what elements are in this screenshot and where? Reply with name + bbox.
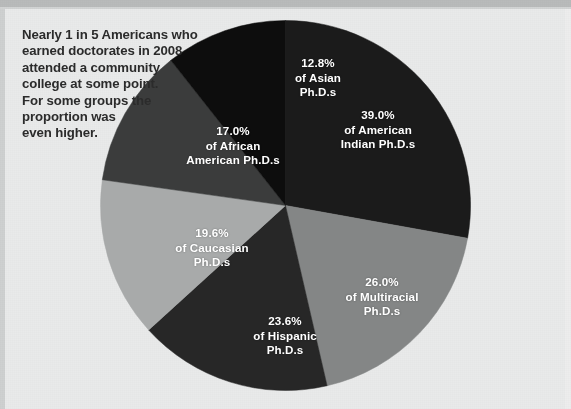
left-edge-bar	[0, 9, 5, 409]
top-gray-band-highlight	[0, 7, 571, 9]
top-gray-band	[0, 0, 571, 7]
caption-text: Nearly 1 in 5 Americans who earned docto…	[22, 27, 242, 142]
pie-chart-infographic: Nearly 1 in 5 Americans who earned docto…	[0, 0, 571, 409]
pie-slice-american-indian[interactable]	[286, 21, 471, 239]
right-edge-bar	[565, 9, 571, 409]
